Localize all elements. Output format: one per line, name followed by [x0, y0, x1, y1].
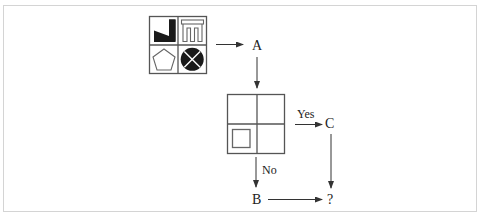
node-c-label: C — [325, 117, 334, 131]
gate-outline-icon — [182, 20, 204, 42]
no-label: No — [262, 164, 277, 176]
decision-grid — [228, 95, 285, 154]
node-a-label: A — [252, 39, 262, 53]
diagram-canvas — [0, 0, 482, 218]
small-square-icon — [233, 130, 251, 148]
result-question-label: ? — [327, 193, 333, 207]
pentagon-icon — [153, 49, 175, 70]
yes-label: Yes — [297, 108, 314, 120]
circle-x-icon — [181, 48, 204, 71]
wedge-triangle-icon — [154, 20, 176, 43]
node-b-label: B — [252, 193, 261, 207]
